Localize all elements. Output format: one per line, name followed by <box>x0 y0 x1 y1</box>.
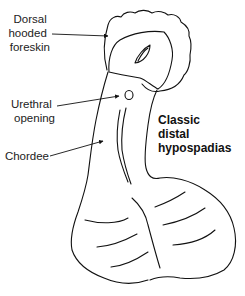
foreskin-label-line: Dorsal <box>14 13 47 25</box>
chordee-band <box>117 108 131 184</box>
scrotal-fold <box>173 230 215 245</box>
hypospadias-diagram: Dorsal hooded foreskin Urethral opening … <box>0 0 245 296</box>
diagram-title: Classic distal hypospadias <box>158 113 232 155</box>
foreskin-leader-arrow <box>52 34 108 36</box>
scrotal-fold <box>97 234 137 247</box>
foreskin-label-line: hooded <box>8 27 46 39</box>
chordee-label: Chordee <box>5 150 49 162</box>
urethral-label-line: Urethral <box>11 98 52 110</box>
urethral-leader-arrow <box>57 96 119 106</box>
scrotal-fold <box>155 192 185 207</box>
meatus-slit <box>135 45 150 63</box>
scrotal-fold <box>163 208 205 225</box>
title-line: Classic <box>158 113 200 127</box>
scrotal-fold <box>85 218 128 223</box>
urethral-label-line: opening <box>14 112 55 124</box>
scrotal-raphe <box>132 198 160 268</box>
foreskin-label: Dorsal hooded foreskin <box>8 13 50 53</box>
scrotal-fold <box>111 252 148 267</box>
title-line: hypospadias <box>158 141 232 155</box>
chordee-label-line: Chordee <box>5 150 49 162</box>
foreskin-hood-outline <box>104 10 191 91</box>
urethral-opening-label: Urethral opening <box>11 98 55 124</box>
urethral-opening <box>125 91 133 100</box>
foreskin-label-line: foreskin <box>10 41 50 53</box>
chordee-leader-arrow <box>50 141 103 156</box>
title-line: distal <box>158 127 189 141</box>
shaft-left-edge <box>71 72 148 283</box>
glans-outline <box>109 31 173 89</box>
